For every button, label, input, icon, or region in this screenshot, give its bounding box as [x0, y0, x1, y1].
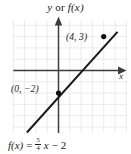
x-axis-label: x	[119, 71, 123, 81]
graph-figure: y or f(x)	[0, 0, 131, 154]
equation-lhs: f(x)	[8, 139, 23, 151]
equation-slope-fraction: 5 4	[35, 137, 40, 152]
point-marker-b	[101, 34, 106, 39]
point-label-a: (0, −2)	[11, 84, 39, 94]
fraction-numerator: 5	[35, 137, 40, 144]
fraction-denominator: 4	[35, 144, 40, 152]
point-marker-a	[56, 91, 61, 96]
equation-variable: x	[44, 139, 49, 151]
equation-equals-sign: =	[26, 139, 32, 151]
coordinate-plane	[0, 0, 131, 154]
equation-caption: f(x) = 5 4 x − 2	[8, 137, 66, 152]
equation-operator: −	[52, 139, 58, 151]
point-label-b: (4, 3)	[66, 32, 87, 42]
equation-intercept: 2	[61, 139, 67, 151]
y-axis-arrowhead	[55, 17, 62, 26]
